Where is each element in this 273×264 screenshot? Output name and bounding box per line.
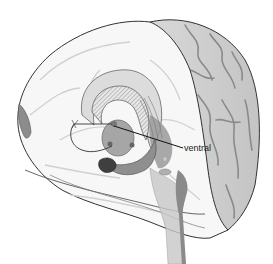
ventral-label: ventral <box>184 144 211 153</box>
brain-diagram: ventral <box>0 0 273 264</box>
brain-illustration <box>0 0 273 264</box>
amygdala <box>99 158 117 173</box>
